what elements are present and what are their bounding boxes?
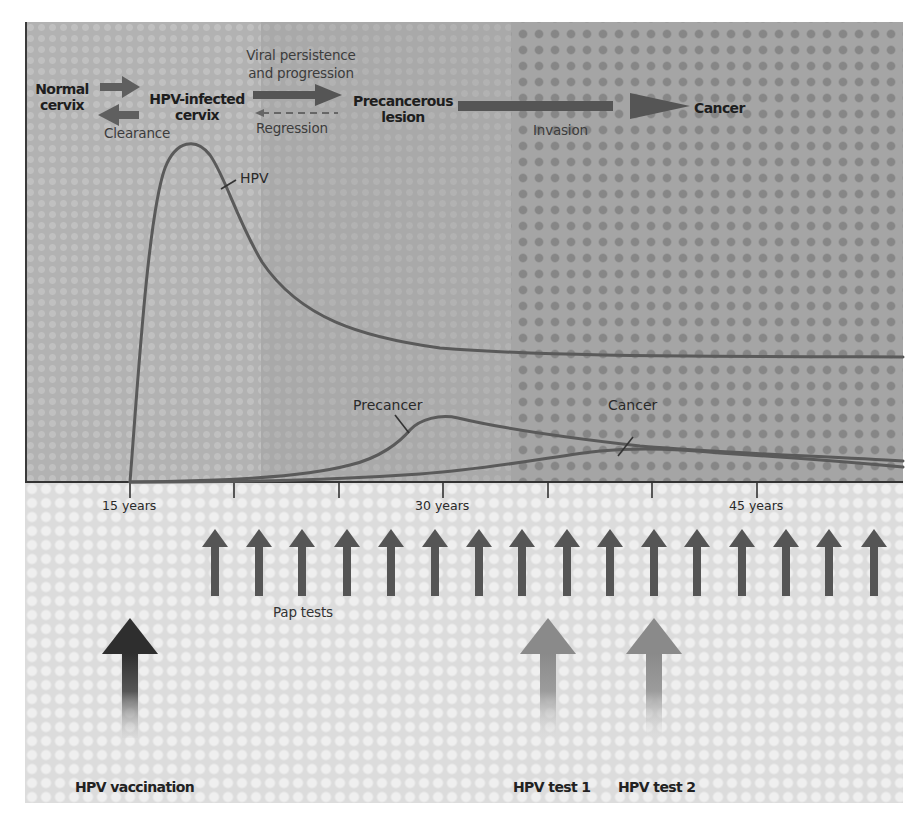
stage-infected-line1: HPV-infected	[144, 92, 250, 106]
stage-hpv-infected-cervix: HPV-infected cervix	[144, 92, 250, 122]
pap-arrow-icon	[729, 529, 755, 596]
stage-precancer-line1: Precancerous	[350, 94, 456, 108]
stage-precancerous-lesion: Precancerous lesion	[350, 94, 456, 124]
pap-arrow-icon	[202, 529, 228, 596]
cancer-curve-label: Cancer	[608, 398, 657, 412]
tick-label-15: 15 years	[102, 500, 156, 513]
pap-arrow-icon	[509, 529, 535, 596]
vaccination-arrow-icon	[102, 618, 158, 738]
pap-arrow-icon	[289, 529, 315, 596]
pap-arrow-icon	[554, 529, 580, 596]
regression-arrow-icon	[255, 109, 338, 117]
persistence-label: Viral persistence and progression	[236, 49, 366, 80]
invasion-label: Invasion	[533, 124, 588, 138]
invasion-arrow-icon	[458, 93, 690, 119]
precancer-curve-label: Precancer	[353, 398, 422, 412]
pap-arrow-icon	[816, 529, 842, 596]
stage-infected-line2: cervix	[144, 108, 250, 122]
hpv-test1-arrow-icon	[520, 618, 576, 738]
tick-label-30: 30 years	[415, 500, 469, 513]
precancer-leader-line	[395, 415, 409, 433]
pap-arrow-icon	[597, 529, 623, 596]
hpv-test2-arrow-icon	[626, 618, 682, 738]
stage-precancer-line2: lesion	[350, 110, 456, 124]
stage-normal-line2: cervix	[28, 98, 96, 112]
progression-arrow-icon	[253, 84, 342, 106]
x-axis	[25, 482, 903, 498]
hpv-vaccination-label: HPV vaccination	[75, 780, 194, 794]
pap-arrow-icon	[684, 529, 710, 596]
clearance-back-arrow-icon	[98, 104, 139, 126]
clearance-forward-arrow-icon	[100, 76, 140, 98]
hpv-curve-label: HPV	[240, 171, 269, 185]
pap-arrow-icon	[334, 529, 360, 596]
hpv-test1-label: HPV test 1	[513, 780, 591, 794]
cancer-leader-line	[618, 437, 633, 456]
precancer-curve	[130, 417, 903, 482]
tick-label-45: 45 years	[729, 500, 783, 513]
pap-arrow-icon	[378, 529, 404, 596]
stage-cancer: Cancer	[694, 101, 745, 115]
persistence-line2: and progression	[236, 67, 366, 81]
regression-label: Regression	[256, 122, 328, 136]
pap-arrow-icon	[773, 529, 799, 596]
pap-tests-label: Pap tests	[273, 606, 333, 620]
stage-normal-cervix: Normal cervix	[28, 82, 96, 112]
stage-normal-line1: Normal	[28, 82, 96, 96]
pap-arrow-icon	[861, 529, 887, 596]
hpv-curve	[130, 144, 903, 482]
chart-overlay	[0, 0, 924, 820]
persistence-line1: Viral persistence	[236, 49, 366, 63]
pap-arrow-icon	[246, 529, 272, 596]
pap-arrow-icon	[466, 529, 492, 596]
pap-arrow-icon	[422, 529, 448, 596]
hpv-test2-label: HPV test 2	[618, 780, 696, 794]
clearance-label: Clearance	[104, 127, 170, 141]
pap-arrow-icon	[641, 529, 667, 596]
pap-test-arrows	[202, 529, 887, 596]
